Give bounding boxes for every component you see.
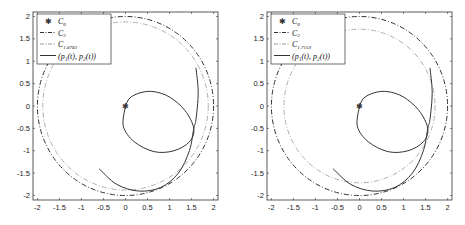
figure: ✱-2-1.5-1-0.500.511.5221.510.50-0.5-1-1.… bbox=[0, 0, 465, 225]
y-tick-label: -2 bbox=[257, 191, 264, 200]
legend-item-trajectory: (p₁(t), p₂(t)) bbox=[292, 52, 330, 61]
x-tick-label: -2 bbox=[268, 203, 275, 212]
x-tick-label: 0.5 bbox=[376, 203, 386, 212]
legend: ✱C0C2C1.7159(p₁(t), p₂(t)) bbox=[271, 14, 345, 64]
x-tick-label: -1 bbox=[312, 203, 319, 212]
chart-panel-2: ✱-2-1.5-1-0.500.511.5221.510.50-0.5-1-1.… bbox=[251, 12, 452, 212]
trajectory-curve bbox=[123, 91, 194, 152]
x-tick-label: 1.5 bbox=[420, 203, 430, 212]
y-tick-label: 1 bbox=[260, 57, 264, 66]
y-tick-label: -2 bbox=[23, 191, 30, 200]
x-tick-label: -0.5 bbox=[97, 203, 110, 212]
x-tick-label: 1.5 bbox=[186, 203, 196, 212]
x-tick-label: -1 bbox=[78, 203, 85, 212]
y-tick-label: 0 bbox=[26, 102, 30, 111]
trajectory-curve bbox=[99, 68, 198, 191]
trajectory-curve bbox=[333, 68, 432, 191]
y-tick-label: 0.5 bbox=[20, 79, 30, 88]
y-tick-label: 0 bbox=[260, 102, 264, 111]
y-tick-label: -1 bbox=[257, 146, 264, 155]
y-tick-label: 2 bbox=[260, 12, 264, 21]
x-tick-label: 1 bbox=[167, 203, 171, 212]
legend: ✱C0C2C1.8783(p₁(t), p₂(t)) bbox=[37, 14, 111, 64]
y-tick-label: -1.5 bbox=[251, 169, 264, 178]
x-tick-label: -0.5 bbox=[331, 203, 344, 212]
x-tick-label: -2 bbox=[34, 203, 41, 212]
y-tick-label: 1.5 bbox=[254, 34, 264, 43]
star-icon: ✱ bbox=[45, 17, 52, 26]
x-tick-label: 0.5 bbox=[142, 203, 152, 212]
y-tick-label: 1 bbox=[26, 57, 30, 66]
y-tick-label: -1.5 bbox=[17, 169, 30, 178]
y-tick-label: 1.5 bbox=[20, 34, 30, 43]
y-tick-label: 0.5 bbox=[254, 79, 264, 88]
x-tick-label: 0 bbox=[357, 203, 361, 212]
legend-item-trajectory: (p₁(t), p₂(t)) bbox=[58, 52, 96, 61]
y-tick-label: -0.5 bbox=[251, 124, 264, 133]
y-tick-label: 2 bbox=[26, 12, 30, 21]
x-tick-label: 2 bbox=[446, 203, 450, 212]
x-tick-label: 2 bbox=[212, 203, 216, 212]
y-tick-label: -1 bbox=[23, 146, 30, 155]
chart-panel-1: ✱-2-1.5-1-0.500.511.5221.510.50-0.5-1-1.… bbox=[17, 12, 218, 212]
y-tick-label: -0.5 bbox=[17, 124, 30, 133]
x-tick-label: 1 bbox=[401, 203, 405, 212]
star-icon: ✱ bbox=[279, 17, 286, 26]
x-tick-label: -1.5 bbox=[53, 203, 66, 212]
trajectory-curve bbox=[357, 91, 428, 152]
x-tick-label: 0 bbox=[123, 203, 127, 212]
x-tick-label: -1.5 bbox=[287, 203, 300, 212]
